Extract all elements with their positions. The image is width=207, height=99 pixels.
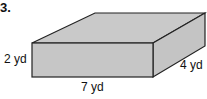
- length-label: 7 yd: [81, 80, 104, 94]
- front-face: [32, 43, 153, 77]
- width-label: 4 yd: [180, 58, 203, 72]
- height-label: 2 yd: [4, 52, 27, 66]
